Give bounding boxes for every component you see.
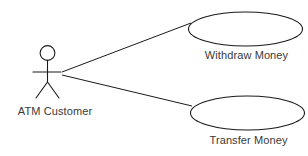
actor-label: ATM Customer <box>8 105 102 117</box>
use-case-transfer-money-label: Transfer Money <box>192 134 305 146</box>
actor-right-leg-line <box>48 82 60 98</box>
stick-figure-icon[interactable] <box>33 46 61 98</box>
association-actor-to-transfer-money[interactable] <box>62 75 192 106</box>
use-case-withdraw-money-ellipse[interactable] <box>189 12 303 46</box>
use-case-withdraw-money-label: Withdraw Money <box>190 49 303 61</box>
actor-head-icon <box>40 46 55 61</box>
use-case-shapes-group <box>189 12 305 130</box>
use-case-transfer-money-ellipse[interactable] <box>191 96 305 130</box>
actor-left-leg-line <box>36 82 48 98</box>
use-case-diagram-canvas: ATM Customer Withdraw Money Transfer Mon… <box>0 0 308 156</box>
diagram-vector-layer <box>0 0 308 156</box>
association-actor-to-withdraw-money[interactable] <box>62 23 191 72</box>
association-lines-group <box>62 23 192 106</box>
